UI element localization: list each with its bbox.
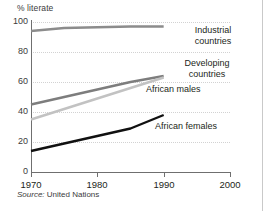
series-label-industrial-line1: Industrial	[195, 25, 232, 35]
series-label-developing-line2: countries	[189, 69, 226, 79]
line-african-males	[31, 78, 164, 120]
series-label-african-females: African females	[155, 121, 217, 132]
series-label-industrial-line2: countries	[195, 36, 232, 46]
source-note: Source: United Nations	[17, 190, 99, 199]
series-label-developing-line1: Developing	[184, 58, 229, 68]
series-label-developing: Developing countries	[159, 58, 255, 79]
line-developing-countries	[31, 76, 164, 105]
series-label-industrial: Industrial countries	[171, 25, 255, 46]
source-text: United Nations	[45, 190, 100, 199]
chart-figure: % literate 100 80 60 40 20 0 1970 1980 1…	[0, 0, 263, 211]
line-industrial-countries	[31, 27, 164, 32]
source-prefix: Source:	[17, 190, 45, 199]
series-label-african-males: African males	[146, 84, 201, 95]
line-african-females	[31, 115, 164, 151]
